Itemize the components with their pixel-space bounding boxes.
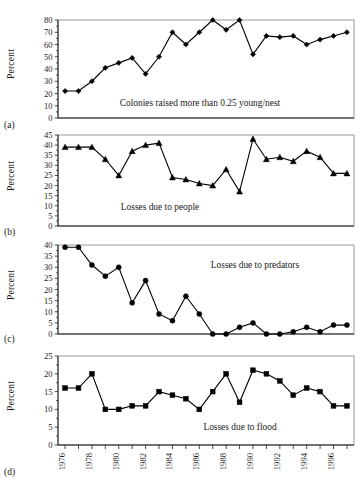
- data-point: [210, 389, 215, 394]
- data-point: [317, 154, 323, 159]
- svg-text:15: 15: [44, 191, 53, 201]
- data-point: [63, 245, 68, 250]
- data-point: [331, 33, 336, 38]
- plot-area-b: 051015202530354045Losses due to people: [0, 130, 360, 237]
- data-point: [116, 60, 121, 65]
- svg-text:20: 20: [44, 285, 53, 295]
- data-point: [224, 332, 229, 337]
- chart-panel-b: Percent (b) 051015202530354045Losses due…: [0, 130, 360, 237]
- data-point: [90, 371, 95, 376]
- plot-area-a: 01020304050607080Colonies raised more th…: [0, 14, 360, 130]
- svg-text:1996: 1996: [326, 452, 336, 470]
- svg-text:25: 25: [44, 351, 53, 361]
- svg-text:20: 20: [44, 369, 53, 379]
- svg-text:20: 20: [44, 181, 53, 191]
- svg-text:50: 50: [44, 52, 53, 62]
- svg-text:1986: 1986: [191, 452, 201, 470]
- data-point: [237, 400, 242, 405]
- svg-text:30: 30: [44, 262, 53, 272]
- data-point: [223, 166, 229, 171]
- svg-text:10: 10: [44, 307, 53, 317]
- data-point: [210, 332, 215, 337]
- data-point: [76, 386, 81, 391]
- data-point: [116, 407, 121, 412]
- data-point: [157, 311, 162, 316]
- svg-text:40: 40: [44, 240, 53, 250]
- svg-text:25: 25: [44, 273, 53, 283]
- data-point: [277, 332, 282, 337]
- data-point: [304, 325, 309, 330]
- series-annotation: Losses due to flood: [203, 422, 276, 432]
- data-point: [103, 274, 108, 279]
- figure-multi-panel-line-charts: Percent (a) 01020304050607080Colonies ra…: [0, 0, 360, 493]
- data-point: [331, 323, 336, 328]
- data-point: [62, 88, 67, 93]
- svg-text:35: 35: [44, 251, 53, 261]
- svg-text:1976: 1976: [57, 452, 67, 470]
- data-point: [143, 278, 148, 283]
- svg-text:15: 15: [44, 387, 53, 397]
- svg-text:1990: 1990: [245, 453, 255, 470]
- svg-text:10: 10: [44, 101, 53, 111]
- data-point: [331, 403, 336, 408]
- data-point: [345, 403, 350, 408]
- data-point: [237, 325, 242, 330]
- data-point: [277, 35, 282, 40]
- data-point: [277, 379, 282, 384]
- svg-text:1988: 1988: [218, 453, 228, 470]
- plot-area-c: 0510152025303540Losses due to predators: [0, 240, 360, 344]
- data-point: [251, 368, 256, 373]
- data-point: [156, 140, 162, 145]
- chart-panel-d: Percent (d) 0510152025197619781980198219…: [0, 351, 360, 493]
- svg-text:45: 45: [44, 130, 53, 140]
- svg-text:1980: 1980: [111, 453, 121, 470]
- svg-text:15: 15: [44, 296, 53, 306]
- data-point: [291, 33, 296, 38]
- data-point: [130, 403, 135, 408]
- svg-text:80: 80: [44, 15, 53, 25]
- data-point: [264, 371, 269, 376]
- data-point: [291, 393, 296, 398]
- data-point: [63, 386, 68, 391]
- svg-text:10: 10: [44, 201, 53, 211]
- svg-text:35: 35: [44, 150, 53, 160]
- svg-text:30: 30: [44, 76, 53, 86]
- data-point: [304, 42, 309, 47]
- series-annotation: Losses due to predators: [211, 260, 300, 270]
- svg-text:0: 0: [48, 440, 52, 450]
- data-point: [76, 245, 81, 250]
- data-point: [344, 323, 349, 328]
- data-point: [224, 371, 229, 376]
- data-point: [183, 396, 188, 401]
- svg-text:1994: 1994: [299, 452, 309, 470]
- svg-text:20: 20: [44, 89, 53, 99]
- svg-text:0: 0: [48, 221, 52, 231]
- data-point: [291, 329, 296, 334]
- svg-text:1992: 1992: [272, 453, 282, 470]
- data-point: [197, 407, 202, 412]
- data-point: [183, 294, 188, 299]
- svg-text:1984: 1984: [164, 452, 174, 470]
- series-annotation: Losses due to people: [121, 202, 199, 212]
- series-annotation: Colonies raised more than 0.25 young/nes…: [120, 98, 281, 108]
- data-point: [277, 154, 283, 159]
- data-point: [89, 263, 94, 268]
- svg-text:1982: 1982: [138, 453, 148, 470]
- data-point: [103, 407, 108, 412]
- svg-text:5: 5: [48, 318, 52, 328]
- chart-panel-c: Percent (c) 0510152025303540Losses due t…: [0, 240, 360, 344]
- plot-area-d: 0510152025197619781980198219841986198819…: [0, 351, 360, 493]
- data-point: [169, 174, 175, 179]
- data-point: [318, 389, 323, 394]
- data-point: [116, 265, 121, 270]
- svg-text:30: 30: [44, 160, 53, 170]
- svg-text:5: 5: [48, 422, 52, 432]
- data-point: [143, 403, 148, 408]
- data-point: [157, 389, 162, 394]
- data-point: [344, 30, 349, 35]
- data-point: [197, 311, 202, 316]
- data-point: [170, 318, 175, 323]
- svg-text:10: 10: [44, 404, 53, 414]
- data-point: [304, 148, 310, 153]
- svg-text:0: 0: [48, 113, 52, 123]
